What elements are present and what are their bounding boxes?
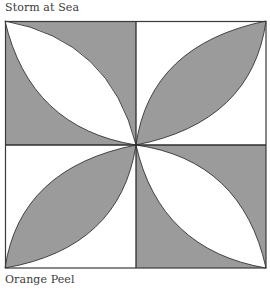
caption-orange-peel: Orange Peel: [5, 273, 75, 286]
orange-peel-quilt-block: [0, 0, 270, 292]
